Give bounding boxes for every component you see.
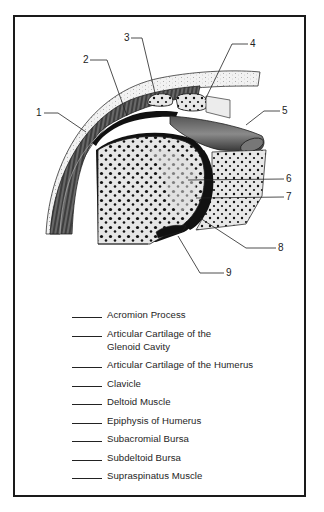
- answer-blank[interactable]: [72, 377, 102, 387]
- shoulder-diagram: [0, 0, 324, 300]
- callout-4: 4: [250, 39, 256, 49]
- callout-1: 1: [36, 108, 42, 118]
- answer-blank[interactable]: [72, 395, 102, 405]
- label-row-epiphysis: Epiphysis of Humerus: [72, 414, 302, 427]
- callout-7: 7: [286, 192, 292, 202]
- label-row-clavicle: Clavicle: [72, 377, 302, 390]
- term-label: Deltoid Muscle: [107, 395, 171, 408]
- term-label: Articular Cartilage of the Glenoid Cavit…: [107, 327, 211, 353]
- answer-blank[interactable]: [72, 432, 102, 442]
- callout-3: 3: [124, 33, 130, 43]
- label-row-humerus-cartilage: Articular Cartilage of the Humerus: [72, 358, 302, 371]
- answer-blank[interactable]: [72, 327, 102, 337]
- label-row-supraspinatus: Supraspinatus Muscle: [72, 469, 302, 482]
- term-label: Subdeltoid Bursa: [107, 451, 181, 464]
- answer-blank[interactable]: [72, 414, 102, 424]
- answer-blank[interactable]: [72, 358, 102, 368]
- callout-8: 8: [278, 243, 284, 253]
- acromion: [148, 94, 173, 106]
- label-list: Acromion Process Articular Cartilage of …: [72, 308, 302, 488]
- callout-9: 9: [226, 268, 232, 278]
- clavicle: [176, 94, 207, 111]
- term-label: Epiphysis of Humerus: [107, 414, 201, 427]
- label-row-subacromial-bursa: Subacromial Bursa: [72, 432, 302, 445]
- label-row-acromion-process: Acromion Process: [72, 308, 302, 321]
- label-row-subdeltoid-bursa: Subdeltoid Bursa: [72, 451, 302, 464]
- answer-blank[interactable]: [72, 469, 102, 479]
- answer-blank[interactable]: [72, 451, 102, 461]
- term-label: Clavicle: [107, 377, 141, 390]
- label-row-deltoid-muscle: Deltoid Muscle: [72, 395, 302, 408]
- term-label-line1: Articular Cartilage of the: [107, 328, 211, 339]
- callout-2: 2: [83, 55, 89, 65]
- term-label: Supraspinatus Muscle: [107, 469, 202, 482]
- answer-blank[interactable]: [72, 308, 102, 318]
- term-label: Articular Cartilage of the Humerus: [107, 358, 253, 371]
- term-label-line2: Glenoid Cavity: [107, 341, 170, 352]
- label-row-glenoid-cartilage: Articular Cartilage of the Glenoid Cavit…: [72, 327, 302, 353]
- callout-5: 5: [282, 106, 288, 116]
- term-label: Acromion Process: [107, 308, 186, 321]
- term-label: Subacromial Bursa: [107, 432, 189, 445]
- callout-6: 6: [286, 174, 292, 184]
